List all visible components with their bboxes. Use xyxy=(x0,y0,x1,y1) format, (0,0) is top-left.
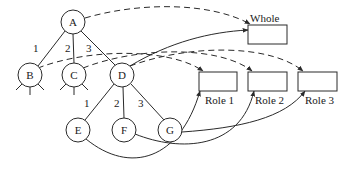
edge-label-d-e: 1 xyxy=(84,97,90,109)
node-g: G xyxy=(158,118,182,142)
svg-text:C: C xyxy=(70,69,77,81)
node-c: C xyxy=(62,63,86,87)
box-role2: Role 2 xyxy=(248,72,287,106)
box-role1: Role 1 xyxy=(199,72,237,106)
box-role3: Role 3 xyxy=(298,72,337,106)
node-a: A xyxy=(61,10,85,34)
arrow-f-role2 xyxy=(135,91,254,144)
edge-a-c xyxy=(73,34,74,63)
node-b: B xyxy=(18,63,42,87)
arrow-c-role2 xyxy=(83,52,252,71)
arrow-a-whole xyxy=(85,7,250,24)
svg-text:E: E xyxy=(75,124,82,136)
node-d: D xyxy=(110,63,134,87)
edge-label-a-c: 2 xyxy=(65,42,71,54)
svg-text:Role 1: Role 1 xyxy=(205,94,234,106)
edge-label-a-b: 1 xyxy=(33,42,39,54)
svg-text:Whole: Whole xyxy=(250,12,279,24)
svg-text:Role 3: Role 3 xyxy=(305,94,335,106)
node-f: F xyxy=(112,118,136,142)
node-e: E xyxy=(66,118,90,142)
edge-label-a-d: 3 xyxy=(86,42,92,54)
svg-text:A: A xyxy=(69,16,77,28)
svg-text:G: G xyxy=(166,124,174,136)
edge-d-g xyxy=(131,84,164,120)
tree-role-diagram: 1 2 3 1 2 3 A B C xyxy=(0,0,350,169)
edge-d-f xyxy=(123,87,124,118)
tree-edges xyxy=(38,31,164,120)
box-whole: Whole xyxy=(248,12,287,44)
svg-text:B: B xyxy=(26,69,33,81)
svg-text:Role 2: Role 2 xyxy=(255,94,284,106)
edge-label-d-g: 3 xyxy=(138,97,144,109)
svg-text:F: F xyxy=(121,124,127,136)
svg-text:D: D xyxy=(118,69,126,81)
arrow-d-whole xyxy=(130,30,248,66)
arrow-d-role3 xyxy=(130,50,303,71)
edge-label-d-f: 2 xyxy=(114,97,120,109)
arrow-g-role3 xyxy=(182,91,305,132)
